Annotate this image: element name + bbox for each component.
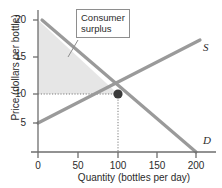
consumer-surplus-callout: Consumer surplus: [76, 9, 130, 38]
x-tick-label-50: 50: [67, 160, 89, 171]
x-tick-label-0: 0: [27, 160, 49, 171]
consumer-surplus-chart: 20 15 10 5 0 50 100 150 200 Price (dolla…: [0, 0, 222, 188]
x-axis-title: Quantity (bottles per day): [52, 172, 216, 183]
y-axis-title: Price (dollars per bottle): [10, 8, 21, 128]
x-tick-label-200: 200: [185, 160, 207, 171]
x-tick-label-100: 100: [107, 160, 129, 171]
callout-line-1: Consumer: [81, 12, 125, 23]
x-tick-label-150: 150: [146, 160, 168, 171]
demand-curve-label: D: [203, 134, 211, 146]
equilibrium-point-marker: [113, 89, 122, 98]
callout-line-2: surplus: [81, 23, 125, 34]
supply-curve-label: S: [203, 41, 209, 53]
